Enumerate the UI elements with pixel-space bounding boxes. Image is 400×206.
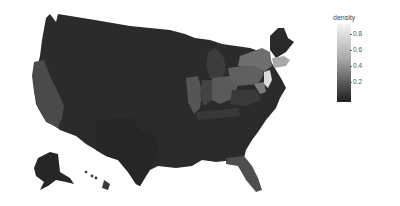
state-maine [270, 28, 294, 58]
density-legend: density 0.8 0.6 0.4 0.2 [333, 14, 393, 106]
legend-title: density [333, 14, 355, 21]
state-hawaii [85, 171, 110, 190]
state-massachusetts [272, 56, 290, 68]
legend-color-bar [337, 24, 351, 102]
state-alaska [34, 152, 74, 190]
legend-tick: 0.8 [353, 30, 362, 37]
legend-tick: 0.4 [353, 62, 362, 69]
legend-tick: 0.6 [353, 46, 362, 53]
state-florida [226, 156, 262, 192]
legend-tick: 0.2 [353, 78, 362, 85]
